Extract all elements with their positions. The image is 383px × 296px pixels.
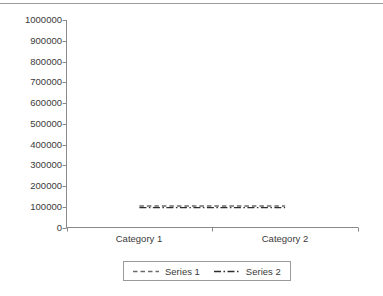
- y-axis-tick-labels: 0100000200000300000400000500000600000700…: [0, 0, 62, 296]
- legend-label-series-2: Series 2: [246, 266, 281, 277]
- y-axis-tick-label: 400000: [4, 140, 62, 150]
- y-axis-tick-label: 700000: [4, 77, 62, 87]
- x-category-label: Category 1: [66, 232, 212, 248]
- y-axis-tick-label: 200000: [4, 181, 62, 191]
- x-axis-ticks: [68, 228, 359, 232]
- y-axis-tick-label: 600000: [4, 98, 62, 108]
- legend-label-series-1: Series 1: [165, 266, 200, 277]
- legend-swatch-dashed-icon: [133, 267, 159, 276]
- legend-item-series-2: Series 2: [214, 266, 281, 277]
- data-series-group: [139, 206, 285, 208]
- x-axis-category-labels: Category 1 Category 2: [66, 232, 358, 248]
- legend-swatch-dash-dot-icon: [214, 267, 240, 276]
- y-axis-tick-label: 100000: [4, 202, 62, 212]
- y-axis-tick-label: 300000: [4, 160, 62, 170]
- y-axis-tick-label: 900000: [4, 36, 62, 46]
- chart-figure: 0100000200000300000400000500000600000700…: [0, 0, 383, 296]
- legend-item-series-1: Series 1: [133, 266, 200, 277]
- x-category-label: Category 2: [212, 232, 358, 248]
- y-axis-tick-label: 1000000: [4, 15, 62, 25]
- chart-legend: Series 1 Series 2: [123, 261, 291, 281]
- y-axis-tick-label: 800000: [4, 57, 62, 67]
- y-axis-tick-label: 500000: [4, 119, 62, 129]
- y-axis-tick-label: 0: [4, 223, 62, 233]
- y-axis-ticks: [63, 21, 67, 229]
